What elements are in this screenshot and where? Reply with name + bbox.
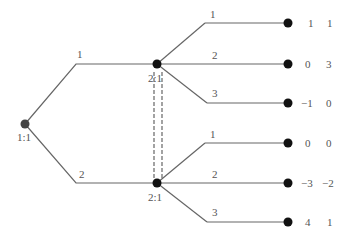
root-label: 1:1 <box>17 131 31 143</box>
svg-text:2: 2 <box>79 168 85 180</box>
svg-text:3: 3 <box>326 58 332 70</box>
svg-text:0: 0 <box>305 137 311 149</box>
lower-label: 2:1 <box>148 191 162 203</box>
svg-text:3: 3 <box>212 87 218 99</box>
svg-text:2: 2 <box>212 49 218 61</box>
svg-text:2: 2 <box>212 168 218 180</box>
svg-text:1: 1 <box>210 8 216 20</box>
svg-text:3: 3 <box>212 206 218 218</box>
svg-text:0: 0 <box>305 58 311 70</box>
upper-label: 2:1 <box>148 72 162 84</box>
svg-text:4: 4 <box>305 216 311 228</box>
svg-text:−1: −1 <box>301 97 313 109</box>
svg-text:1: 1 <box>327 17 333 29</box>
p2-lower-node <box>153 179 162 188</box>
svg-text:−2: −2 <box>322 177 334 189</box>
svg-text:1: 1 <box>327 216 333 228</box>
svg-text:1: 1 <box>308 17 314 29</box>
game-tree: 1:1 2:1 2:1 1 2 1 2 3 1 2 3 11 03 −10 00… <box>0 0 351 236</box>
root-node <box>21 120 30 129</box>
svg-text:0: 0 <box>326 97 332 109</box>
svg-text:−3: −3 <box>301 177 313 189</box>
svg-text:1: 1 <box>210 128 216 140</box>
svg-text:0: 0 <box>326 137 332 149</box>
svg-text:1: 1 <box>77 48 83 60</box>
p2-upper-node <box>153 60 162 69</box>
